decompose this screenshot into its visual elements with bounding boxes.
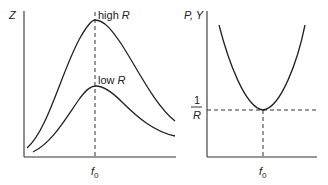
y-tick-denominator: R [193, 109, 201, 121]
resonance-diagram: Z high R low R f0 P, Y 1 R f0 [0, 0, 328, 185]
left-y-axis-label: Z [8, 9, 17, 21]
low-r-label: low R [98, 74, 126, 86]
y-tick-numerator: 1 [194, 94, 200, 106]
left-panel-impedance-plot: Z high R low R f0 [8, 9, 176, 180]
right-x-tick-f0: f0 [259, 165, 267, 180]
left-x-tick-f0: f0 [91, 165, 99, 180]
right-y-axis-label: P, Y [184, 9, 204, 21]
parabola-curve [219, 25, 305, 110]
right-panel-admittance-plot: P, Y 1 R f0 [184, 9, 317, 180]
high-r-label: high R [98, 9, 130, 21]
